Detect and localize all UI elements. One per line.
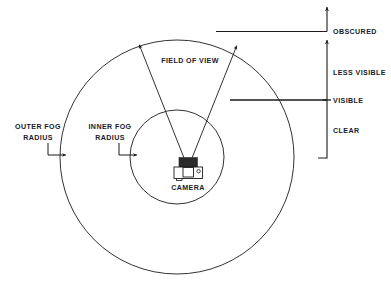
camera-flash-block [179, 158, 198, 168]
legend-label-clear: CLEAR [333, 126, 359, 137]
legend-label-obscured: OBSCURED [333, 27, 377, 38]
camera-lens [183, 168, 194, 178]
diagram-canvas: OBSCURED LESS VISIBLE VISIBLE CLEAR OUTE… [0, 0, 391, 288]
camera-label: CAMERA [171, 183, 205, 194]
outer-fog-radius-label-line1: OUTER FOG [15, 122, 61, 133]
inner-fog-radius-pointer [119, 143, 137, 155]
inner-fog-radius-label: INNER FOG RADIUS [88, 122, 131, 143]
outer-fog-circle [60, 40, 294, 274]
outer-fog-radius-label-line2: RADIUS [15, 133, 61, 144]
camera-foot [177, 179, 183, 181]
legend-label-less-visible: LESS VISIBLE [333, 68, 386, 79]
camera-icon [174, 158, 203, 181]
camera-shutter-dot [197, 170, 200, 173]
legend-label-visible: VISIBLE [333, 96, 363, 107]
fog-visibility-diagram [0, 0, 391, 288]
field-of-view-label: FIELD OF VIEW [161, 56, 219, 67]
inner-fog-radius-label-line2: RADIUS [88, 133, 131, 144]
clear-bracket [318, 100, 327, 158]
outer-fog-radius-label: OUTER FOG RADIUS [15, 122, 61, 143]
inner-fog-radius-label-line1: INNER FOG [88, 122, 131, 133]
outer-fog-radius-pointer [48, 143, 66, 155]
